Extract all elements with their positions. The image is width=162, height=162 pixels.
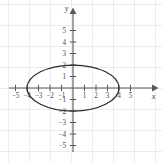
x-axis <box>9 85 159 92</box>
x-tick-label: 5 <box>129 92 133 100</box>
x-tick-label: −5 <box>12 92 20 100</box>
y-axis-arrowhead <box>70 8 77 15</box>
x-tick-label: 3 <box>106 92 110 100</box>
background-grid <box>0 0 162 162</box>
x-tick-label: −2 <box>46 92 54 100</box>
y-tick-label: −1 <box>58 96 66 104</box>
y-tick-label: −5 <box>58 142 66 150</box>
y-tick-label: 3 <box>62 50 66 58</box>
y-tick-label: −2 <box>58 108 66 116</box>
coordinate-plane-svg: −5 −4 −3 −2 −1 1 2 3 4 5 5 4 3 2 1 −1 −2… <box>0 0 162 162</box>
y-axis-label: y <box>64 4 69 13</box>
graph-figure: −5 −4 −3 −2 −1 1 2 3 4 5 5 4 3 2 1 −1 −2… <box>0 0 162 162</box>
y-tick-label: −4 <box>58 131 66 139</box>
x-tick-label: 2 <box>94 92 98 100</box>
x-tick-label: −3 <box>35 92 43 100</box>
y-tick-label: 4 <box>62 39 66 47</box>
y-tick-label: 1 <box>62 73 66 81</box>
x-tick-label: 1 <box>83 92 87 100</box>
x-axis-label: x <box>151 92 156 101</box>
y-tick-label: 5 <box>62 27 66 35</box>
y-tick-label: −3 <box>58 119 66 127</box>
